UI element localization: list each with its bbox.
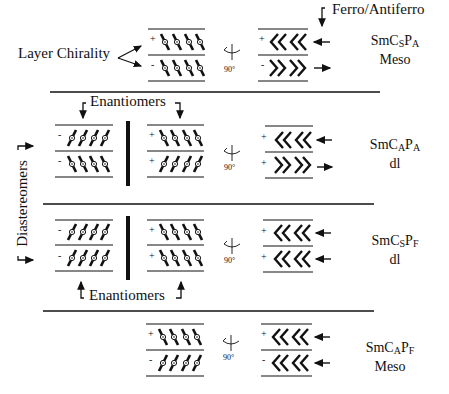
rotation-label-2: 90° bbox=[224, 163, 235, 172]
sign: - bbox=[262, 354, 265, 365]
ferro-antiferro-label: Ferro/Antiferro bbox=[332, 1, 424, 18]
enantiomers-top-label: Enantiomers bbox=[90, 93, 166, 110]
sign: + bbox=[149, 129, 155, 140]
sign: + bbox=[259, 33, 265, 44]
diastereomers-label: Diastereomers bbox=[14, 134, 31, 274]
phase-label-smcapf: SmCAPF Meso bbox=[350, 340, 430, 375]
sign: + bbox=[148, 328, 154, 339]
sign: + bbox=[149, 250, 155, 261]
row4-layers bbox=[146, 324, 330, 376]
sign: - bbox=[261, 59, 264, 70]
sign: - bbox=[58, 224, 61, 235]
rotation-label-1: 90° bbox=[224, 65, 235, 74]
phase-label-smcspa: SmCSPA Meso bbox=[355, 33, 435, 68]
enantiomers-bottom-label: Enantiomers bbox=[89, 287, 165, 304]
rotation-label-3: 90° bbox=[224, 256, 235, 265]
sign: + bbox=[261, 328, 267, 339]
sign: + bbox=[261, 157, 267, 168]
row2-layers bbox=[55, 103, 332, 186]
sign: - bbox=[58, 250, 61, 261]
sign: + bbox=[149, 155, 155, 166]
row3-layers bbox=[55, 216, 331, 298]
sign: + bbox=[261, 131, 267, 142]
sign: + bbox=[150, 33, 156, 44]
phase-label-smcspf: SmCSPF dl bbox=[355, 233, 435, 268]
sign: + bbox=[261, 225, 267, 236]
sign: - bbox=[58, 155, 61, 166]
phase-label-smcapa: SmCAPA dl bbox=[355, 137, 435, 172]
sign: + bbox=[149, 224, 155, 235]
sign: + bbox=[261, 251, 267, 262]
rotation-label-4: 90° bbox=[223, 353, 234, 362]
sign: - bbox=[58, 129, 61, 140]
sign: - bbox=[149, 354, 152, 365]
sign: - bbox=[151, 59, 154, 70]
layer-chirality-label: Layer Chirality bbox=[18, 45, 110, 62]
